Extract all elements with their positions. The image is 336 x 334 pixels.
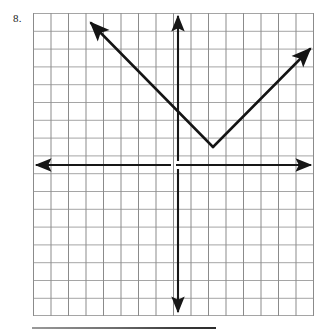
worksheet-problem-item: 8. [0,0,336,334]
problem-number-label: 8. [13,12,22,25]
coordinate-graph-figure [33,13,314,316]
coordinate-grid-svg [33,13,314,316]
footer-divider-rule [32,327,216,329]
